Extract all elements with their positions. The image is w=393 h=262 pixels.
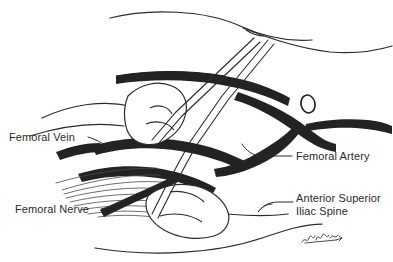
label-femoral-artery: Femoral Artery — [296, 150, 370, 163]
label-asis-line1: Anterior Superior — [296, 192, 392, 205]
label-anterior-superior-iliac-spine: Anterior Superior Iliac Spine — [296, 192, 392, 218]
illustration-page: Femoral Vein Femoral Nerve Femoral Arter… — [0, 0, 393, 262]
label-femoral-nerve: Femoral Nerve — [15, 203, 89, 216]
label-asis-line2: Iliac Spine — [296, 205, 392, 218]
label-femoral-vein: Femoral Vein — [9, 131, 75, 144]
